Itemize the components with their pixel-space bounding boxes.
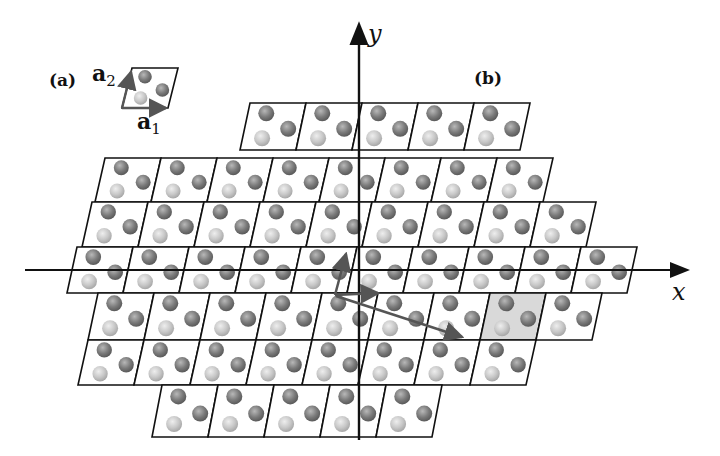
atom: [179, 219, 194, 234]
atom: [473, 274, 489, 290]
unit-cell: [474, 202, 540, 247]
atom: [258, 105, 274, 121]
atom: [433, 342, 448, 357]
atom: [321, 342, 336, 357]
x-axis-label: x: [672, 278, 686, 306]
atom: [222, 416, 238, 432]
atom: [106, 295, 122, 311]
unit-cell: [152, 385, 218, 437]
atom: [334, 184, 349, 199]
atom: [325, 204, 340, 219]
atom: [226, 388, 242, 404]
atom: [134, 91, 148, 105]
atom: [192, 175, 207, 190]
atom: [192, 406, 208, 422]
atom: [494, 320, 510, 336]
atom: [390, 184, 405, 199]
atom: [488, 228, 503, 243]
unit-cell: [208, 385, 274, 437]
atom: [484, 366, 499, 381]
unit-cell: [151, 158, 217, 202]
atom: [360, 406, 376, 422]
unit-cell: [362, 202, 428, 247]
unit-cell: [352, 103, 418, 150]
atom: [394, 388, 410, 404]
atom: [157, 204, 172, 219]
atom: [123, 219, 138, 234]
atom: [478, 130, 494, 146]
atom: [304, 175, 319, 190]
atom: [443, 264, 459, 280]
atom: [422, 130, 438, 146]
atom: [502, 184, 517, 199]
atom: [611, 264, 627, 280]
atom: [235, 219, 250, 234]
atom: [128, 311, 144, 327]
unit-cell: [319, 158, 385, 202]
atom: [184, 311, 200, 327]
atom: [269, 204, 284, 219]
unit-cell: [530, 202, 596, 247]
unit-cell: [536, 293, 602, 340]
atom: [437, 204, 452, 219]
atom: [365, 249, 381, 265]
atom: [472, 175, 487, 190]
atom: [282, 160, 297, 175]
unit-cell: [408, 103, 474, 150]
atom: [448, 121, 464, 137]
atom: [544, 228, 559, 243]
atom: [214, 320, 230, 336]
atom: [231, 357, 246, 372]
unit-cell: [424, 293, 490, 340]
unit-cell: [207, 158, 273, 202]
atom: [141, 249, 157, 265]
atom: [296, 311, 312, 327]
atom: [392, 121, 408, 137]
atom: [248, 406, 264, 422]
atom: [336, 121, 352, 137]
atom: [265, 342, 280, 357]
atom: [102, 320, 118, 336]
atom: [287, 357, 302, 372]
atom: [264, 228, 279, 243]
atom: [416, 175, 431, 190]
atom: [275, 264, 291, 280]
unit-cell: [414, 340, 480, 385]
atom: [153, 342, 168, 357]
atom: [278, 184, 293, 199]
atom: [477, 249, 493, 265]
atom: [511, 357, 526, 372]
atom: [114, 160, 129, 175]
atom: [338, 160, 353, 175]
unit-cell: [264, 385, 330, 437]
atom: [576, 311, 592, 327]
atom: [97, 342, 112, 357]
atom: [528, 175, 543, 190]
unit-cell: [246, 340, 312, 385]
atom: [219, 264, 235, 280]
atom: [253, 249, 269, 265]
unit-cell: [358, 340, 424, 385]
atom: [426, 105, 442, 121]
atom: [498, 295, 514, 311]
unit-cell: [306, 202, 372, 247]
atom: [170, 388, 186, 404]
atom: [193, 274, 209, 290]
atom: [248, 175, 263, 190]
atom: [291, 219, 306, 234]
atom: [162, 295, 178, 311]
a1-subscript: 1: [151, 120, 161, 138]
atom: [158, 320, 174, 336]
atom: [529, 274, 545, 290]
atom: [455, 357, 470, 372]
atom: [148, 366, 163, 381]
atom: [334, 416, 350, 432]
vector-a2-label: a2: [92, 60, 116, 90]
a2-subscript: 2: [106, 72, 116, 90]
atom: [520, 311, 536, 327]
atom: [361, 274, 377, 290]
atom: [92, 366, 107, 381]
atom: [489, 342, 504, 357]
unit-cell: [95, 158, 161, 202]
atom: [156, 83, 170, 97]
